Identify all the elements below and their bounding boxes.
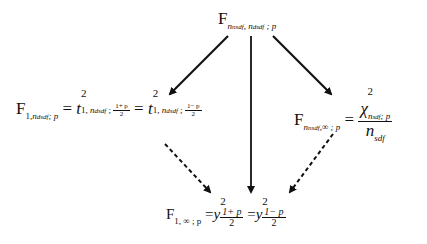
equals-sign: = bbox=[345, 110, 355, 129]
superscript-two: 2 bbox=[367, 86, 373, 97]
node-bottom-f-y-relation: F1, ∞ ; p =y21+ p2 =y21− p2 bbox=[166, 204, 286, 228]
den-idx: sdf bbox=[374, 133, 385, 143]
sub-idx: dsdf bbox=[94, 107, 106, 115]
sub-idx: nsdf bbox=[308, 124, 320, 132]
sub-idx: dsdf bbox=[166, 107, 178, 115]
superscript-two: 2 bbox=[153, 88, 202, 99]
arrow-left-to-bottom-dashed bbox=[165, 144, 210, 192]
sub-p: ; p bbox=[381, 111, 391, 121]
chi-symbol: χ bbox=[360, 99, 367, 118]
sub-idx: nsdf bbox=[232, 23, 244, 31]
sub-label: 1, ∞ ; p bbox=[174, 216, 201, 226]
sub-rest: ,∞ ; p bbox=[320, 122, 341, 132]
sub-p: ; p bbox=[48, 111, 58, 121]
frac-den: 2 bbox=[120, 111, 124, 118]
frac-den: 2 bbox=[191, 111, 195, 118]
arrow-top-to-left bbox=[170, 36, 228, 94]
node-left-f-t-relation: F1,ndsdf; p = t21, ndsdf ; 1+ p2 = t21, … bbox=[16, 100, 202, 121]
equals-sign: = bbox=[62, 99, 72, 118]
frac-den: 2 bbox=[271, 218, 276, 228]
y-symbol: y bbox=[256, 206, 263, 222]
node-right-f-chi-relation: Fnnsdf,∞ ; p = 2χnsdf; p nsdf bbox=[294, 100, 392, 143]
superscript-two: 2 bbox=[81, 88, 130, 99]
node-top-f-statistic: Fnnsdf, ndsdf ; p bbox=[218, 10, 276, 31]
equals-sign: = bbox=[134, 99, 144, 118]
sub-idx: dsdf bbox=[37, 113, 49, 121]
sub-p: p bbox=[272, 21, 277, 31]
y-symbol: y bbox=[213, 206, 220, 222]
sub-one: 1, bbox=[81, 105, 88, 115]
arrow-top-to-right bbox=[273, 36, 331, 94]
sub-idx: dsdf bbox=[253, 23, 265, 31]
equals-sign: = bbox=[247, 206, 255, 222]
sub-idx: sdf bbox=[372, 113, 380, 121]
frac-den: 2 bbox=[229, 218, 234, 228]
sub-one: 1, bbox=[153, 105, 160, 115]
